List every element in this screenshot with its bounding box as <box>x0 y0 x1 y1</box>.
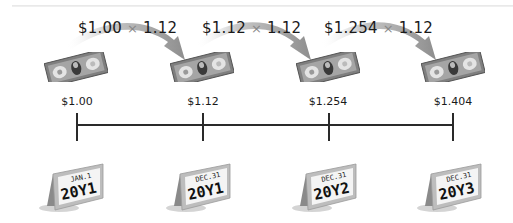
value-label: $1.404 <box>434 95 473 108</box>
formula-base: $1.12 <box>202 19 246 37</box>
value-label: $1.12 <box>187 95 219 108</box>
desk-calendar-icon: DEC.31 20Y2 <box>288 160 360 214</box>
times-icon: × <box>251 21 262 36</box>
formula-base: $1.00 <box>78 19 122 37</box>
formula-multiplier: 1.12 <box>143 19 177 37</box>
formula-3: $1.254×1.12 <box>324 19 433 37</box>
timeline-axis <box>77 124 453 126</box>
formula-base: $1.254 <box>324 19 378 37</box>
value-label: $1.00 <box>61 95 93 108</box>
formula-multiplier: 1.12 <box>399 19 433 37</box>
timeline-tick <box>328 113 330 141</box>
dollar-bill-icon <box>44 52 108 82</box>
formula-1: $1.00×1.12 <box>78 19 177 37</box>
desk-calendar-icon: DEC.31 20Y3 <box>413 160 485 214</box>
timeline-tick <box>202 113 204 141</box>
dollar-bill-icon <box>421 52 485 82</box>
timeline-tick <box>452 113 454 141</box>
formula-multiplier: 1.12 <box>267 19 301 37</box>
formula-2: $1.12×1.12 <box>202 19 301 37</box>
dollar-bill-icon <box>170 52 234 82</box>
dollar-bill-icon <box>296 52 360 82</box>
times-icon: × <box>127 21 138 36</box>
value-label: $1.254 <box>309 95 348 108</box>
desk-calendar-icon: JAN.1 20Y1 <box>35 160 107 214</box>
times-icon: × <box>383 21 394 36</box>
desk-calendar-icon: DEC.31 20Y1 <box>162 160 234 214</box>
timeline-tick <box>76 113 78 141</box>
